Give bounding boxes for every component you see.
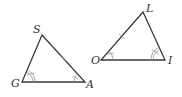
vertex-label-i: I	[167, 54, 173, 67]
angle-o-tick	[107, 53, 114, 54]
triangle-sga: S G A	[11, 23, 94, 91]
angle-a-tick	[72, 76, 78, 79]
congruent-triangles-figure: S G A L O I	[0, 0, 182, 97]
side-sa-tick	[61, 55, 67, 61]
triangle-loi: L O I	[91, 2, 173, 67]
vertex-label-o: O	[91, 54, 100, 67]
vertex-label-l: L	[145, 2, 153, 15]
vertex-label-a: A	[85, 78, 94, 91]
vertex-label-g: G	[11, 77, 20, 90]
triangle-sga-outline	[22, 35, 85, 82]
angle-o-arc	[109, 51, 113, 60]
vertex-label-s: S	[33, 23, 41, 36]
